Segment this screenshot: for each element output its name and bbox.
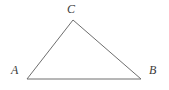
vertex-label-b: B [149,64,156,76]
triangle-shape [0,0,169,90]
vertex-label-a: A [11,64,18,76]
vertex-label-c: C [67,3,75,15]
triangle-diagram: A B C [0,0,169,90]
triangle-outline [27,20,141,79]
